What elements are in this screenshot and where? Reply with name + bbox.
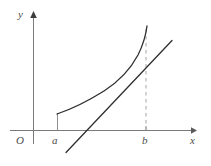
- x-axis-arrowhead: [191, 127, 197, 134]
- y-axis-arrowhead: [30, 11, 37, 18]
- y-axis: [30, 11, 37, 144]
- x-tick-label-b: b: [142, 135, 148, 146]
- x-axis-label: x: [190, 135, 195, 146]
- x-axis: [10, 127, 197, 134]
- origin-label: O: [16, 135, 24, 146]
- figure-canvas: [0, 0, 211, 166]
- figure-container: y O a b x: [0, 0, 211, 166]
- x-tick-label-a: a: [52, 135, 58, 146]
- function-curve: [57, 26, 147, 114]
- y-axis-label: y: [18, 9, 23, 20]
- tangent-line: [66, 41, 172, 153]
